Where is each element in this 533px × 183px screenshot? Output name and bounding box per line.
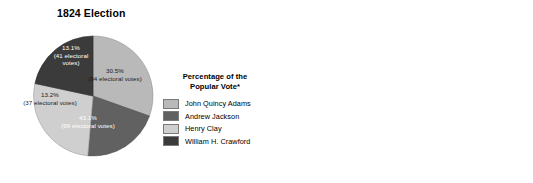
pie-label-votes: (37 electoral votes) <box>8 99 92 107</box>
chart-title-1824: 1824 Election <box>57 7 125 19</box>
legend-swatch-icon <box>163 111 179 121</box>
legend-item-henry-clay[interactable]: Henry Clay <box>163 124 267 133</box>
chart-panel-1824: 1824 Election 30.5% (84 electoral votes)… <box>0 0 270 183</box>
pie-label-percent: 13.1% <box>42 44 100 52</box>
pie-label-william-h-crawford-1824: 13.1% (41 electoral votes) <box>42 44 100 67</box>
pie-label-henry-clay-1824: 13.2% (37 electoral votes) <box>8 91 92 106</box>
legend-title: Percentage of the Popular Vote* <box>163 72 267 92</box>
pie-label-percent: 43.1% <box>46 114 130 122</box>
chart-panel-1828: 1828 Election 56% (178 electoral votes) … <box>270 0 533 183</box>
pie-label-andrew-jackson-1824: 43.1% (99 electoral votes) <box>46 114 130 129</box>
legend-item-label: John Quincy Adams <box>185 99 251 108</box>
legend-swatch-icon <box>163 124 179 134</box>
legend-1824: Percentage of the Popular Vote* John Qui… <box>163 72 267 149</box>
legend-swatch-icon <box>163 99 179 109</box>
legend-item-label: William H. Crawford <box>185 137 250 146</box>
pie-label-votes: (99 electoral votes) <box>46 122 130 130</box>
legend-item-john-quincy-adams[interactable]: John Quincy Adams <box>163 99 267 108</box>
legend-title-line1: Percentage of the <box>163 72 267 82</box>
pie-label-votes-line1: (41 electoral <box>42 52 100 60</box>
pie-label-votes-line2: votes) <box>42 59 100 67</box>
legend-item-andrew-jackson[interactable]: Andrew Jackson <box>163 112 267 121</box>
legend-item-label: Andrew Jackson <box>185 112 239 121</box>
legend-title-line2: Popular Vote* <box>163 82 267 92</box>
legend-item-label: Henry Clay <box>185 124 222 133</box>
pie-label-percent: 30.5% <box>78 67 152 75</box>
pie-label-john-quincy-adams-1824: 30.5% (84 electoral votes) <box>78 67 152 82</box>
pie-label-votes: (84 electoral votes) <box>78 75 152 83</box>
pie-label-percent: 13.2% <box>8 91 92 99</box>
legend-swatch-icon <box>163 136 179 146</box>
legend-item-william-h-crawford[interactable]: William H. Crawford <box>163 137 267 146</box>
